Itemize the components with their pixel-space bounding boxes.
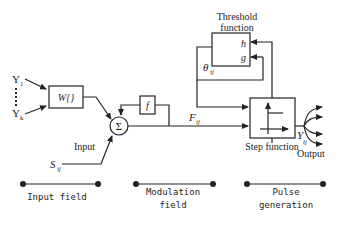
svg-text:θ: θ: [203, 61, 209, 73]
arrow-feedback-to-sum: [121, 105, 140, 115]
stimulus-label: S ij: [50, 158, 61, 173]
output-label: Output: [297, 148, 325, 159]
svg-text:function: function: [220, 22, 253, 33]
feedback-line-in: [155, 105, 169, 126]
svg-text:Modulation: Modulation: [146, 187, 200, 197]
svg-text:Input field: Input field: [27, 192, 87, 202]
svg-text:g: g: [241, 52, 246, 63]
feedback-box: f: [140, 96, 155, 114]
svg-text:ij: ij: [196, 118, 200, 126]
section-modulation-field: Modulation field: [133, 181, 216, 210]
section-input-field: Input field: [20, 181, 101, 202]
svg-text:1: 1: [20, 80, 24, 88]
arrow-threshold-to-step: [197, 80, 248, 107]
threshold-title: Threshold function: [217, 11, 258, 33]
svg-text:h: h: [241, 38, 246, 49]
step-function-label: Step function: [245, 141, 299, 152]
pcnn-neuron-diagram: Y 1 Y k W{} Input S ij Σ f F ij Threshol…: [0, 0, 340, 225]
svg-text:generation: generation: [259, 200, 313, 210]
threshold-box: h g: [212, 33, 250, 66]
weights-box: W{}: [49, 86, 83, 108]
arrow-weights-to-sum: [83, 97, 111, 119]
svg-text:F: F: [188, 111, 196, 123]
section-pulse-generation: Pulse generation: [244, 181, 326, 210]
svg-text:Pulse: Pulse: [272, 187, 299, 197]
arrow-yk-to-weights: [25, 106, 46, 114]
input-label: Input: [74, 141, 95, 152]
sum-node: Σ: [110, 117, 128, 135]
step-function-box: [250, 98, 295, 138]
arrow-y1-to-weights: [25, 79, 46, 89]
svg-text:k: k: [20, 114, 24, 122]
svg-text:field: field: [159, 200, 186, 210]
svg-text:W{}: W{}: [58, 92, 74, 103]
svg-text:ij: ij: [57, 165, 61, 173]
input-yk-label: Y k: [12, 107, 24, 122]
svg-text:ij: ij: [303, 138, 307, 146]
svg-text:Σ: Σ: [116, 120, 122, 132]
svg-text:ij: ij: [210, 68, 214, 76]
svg-text:S: S: [50, 158, 56, 170]
internal-activity-label: F ij: [188, 111, 200, 126]
input-y1-label: Y 1: [12, 73, 24, 88]
svg-text:Threshold: Threshold: [217, 11, 258, 22]
svg-text:Y: Y: [12, 107, 20, 119]
svg-text:Y: Y: [12, 73, 20, 85]
